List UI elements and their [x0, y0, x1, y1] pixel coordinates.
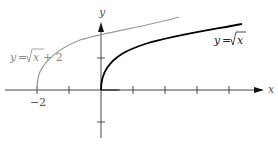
- y-axis: [97, 22, 105, 138]
- x-axis-label: x: [268, 83, 275, 96]
- graph-canvas: y x −2 y = x + 2 y = x: [0, 0, 278, 144]
- label-eq: =: [222, 34, 231, 47]
- label-y: y: [213, 34, 221, 47]
- y-axis-label: y: [98, 6, 106, 19]
- shifted-curve-label: y = x + 2: [9, 49, 63, 64]
- label-plus2: + 2: [43, 51, 63, 64]
- base-curve-label: y = x: [213, 32, 246, 47]
- label-eq: =: [18, 51, 27, 64]
- tick-label-neg2: −2: [30, 96, 46, 109]
- y-axis-arrow-icon: [98, 22, 104, 32]
- label-y: y: [9, 51, 17, 64]
- label-x: x: [237, 34, 244, 47]
- label-x: x: [33, 51, 40, 64]
- x-axis-arrow-icon: [254, 87, 264, 93]
- x-axis: [5, 86, 264, 94]
- base-sqrt-curve: [101, 24, 242, 90]
